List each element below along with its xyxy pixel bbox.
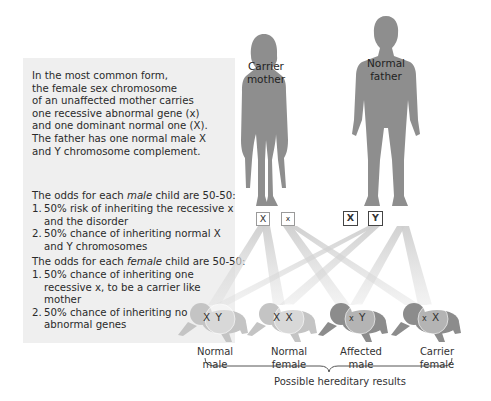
child-label-carrier-female: Carrierfemale bbox=[402, 345, 472, 371]
child-1-chromosomes: X Y bbox=[203, 311, 223, 323]
father-silhouette bbox=[352, 16, 420, 206]
child-2-chromosomes: X X bbox=[273, 311, 294, 323]
mother-chromosome-X: X bbox=[256, 212, 270, 226]
father-chromosome-Y: Y bbox=[368, 211, 383, 226]
child-4-chromosomes: x X bbox=[422, 311, 440, 323]
child-label-normal-female: Normalfemale bbox=[254, 345, 324, 371]
father-label: Normalfather bbox=[366, 57, 406, 83]
child-label-normal-male: Normalmale bbox=[180, 345, 250, 371]
inheritance-beams bbox=[208, 226, 432, 305]
child-3-chromosomes: x Y bbox=[349, 311, 367, 323]
mother-chromosome-x: x bbox=[281, 212, 295, 226]
results-caption: Possible hereditary results bbox=[250, 376, 430, 387]
father-chromosome-X: X bbox=[343, 211, 358, 226]
mother-label: Carriermother bbox=[246, 60, 286, 86]
child-label-affected-male: Affectedmale bbox=[326, 345, 396, 371]
